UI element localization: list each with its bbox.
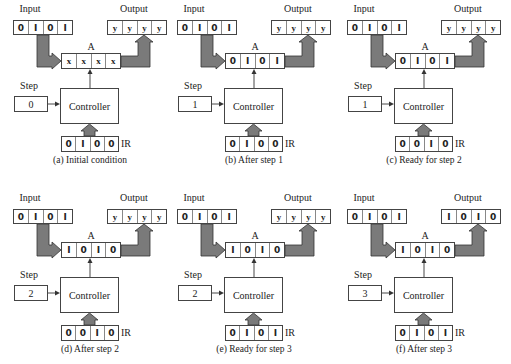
output-bit: y — [301, 21, 316, 34]
ir-to-controller-arrow — [81, 313, 98, 325]
ir-to-controller-arrow — [245, 124, 262, 136]
input-bit: I — [28, 210, 43, 223]
diagram-panel-b: Input 0I0I Output yyyy A 0I0I Step 1 Con… — [164, 0, 334, 180]
diagram-panel-d: Input 0I0I Output yyyy A I0I0 Step 2 Con… — [0, 189, 170, 364]
ir-bit: I — [239, 137, 253, 151]
output-bit: y — [315, 210, 330, 223]
ir-bit: 0 — [396, 326, 409, 340]
a-bit: I — [255, 243, 270, 257]
ir-to-controller-arrow — [245, 313, 262, 325]
diagram-panel-c: Input 0I0I Output yyyy A 0I0I Step 1 Con… — [334, 0, 504, 180]
accumulator-label: A — [249, 230, 261, 241]
input-register: 0I0I — [347, 209, 407, 224]
input-bit: 0 — [14, 210, 28, 223]
input-to-a-arrow — [37, 35, 61, 69]
ir-bit: I — [90, 326, 104, 340]
arrowhead-icon — [88, 258, 93, 263]
input-bit: 0 — [207, 21, 222, 34]
ir-label: IR — [285, 138, 299, 149]
input-register: 0I0I — [177, 209, 237, 224]
a-to-output-arrow — [455, 35, 487, 67]
step-counter: 1 — [348, 96, 382, 112]
a-bit: x — [105, 54, 120, 68]
a-bit: x — [62, 54, 76, 68]
output-bit: y — [137, 210, 152, 223]
panel-caption: (e) Ready for step 3 — [164, 344, 344, 354]
accumulator-register: I0I0 — [225, 242, 285, 258]
output-bit: y — [286, 210, 301, 223]
input-to-a-arrow — [201, 35, 225, 69]
output-label: Output — [446, 192, 490, 203]
accumulator-register: xxxx — [61, 53, 121, 69]
step-label: Step — [12, 80, 46, 91]
accumulator-label: A — [419, 230, 431, 241]
accumulator-label: A — [85, 41, 97, 52]
a-to-output-arrow — [121, 224, 153, 256]
input-bit: I — [192, 21, 207, 34]
controller-box: Controller — [60, 277, 119, 313]
input-register: 0I0I — [347, 20, 407, 35]
output-bit: y — [108, 21, 122, 34]
accumulator-label: A — [419, 41, 431, 52]
instruction-register: 0I0I — [225, 325, 283, 341]
ir-bit: 0 — [226, 137, 239, 151]
panel-caption: (d) After step 2 — [0, 344, 180, 354]
ir-bit: I — [438, 326, 452, 340]
step-counter: 2 — [178, 285, 212, 301]
controller-box: Controller — [224, 88, 283, 124]
ir-bit: I — [268, 326, 282, 340]
input-to-a-arrow — [37, 224, 61, 258]
input-bit: I — [362, 210, 377, 223]
a-to-output-arrow — [121, 35, 153, 67]
ir-bit: 0 — [226, 326, 239, 340]
step-label: Step — [346, 269, 380, 280]
output-bit: y — [315, 21, 330, 34]
input-label: Input — [177, 3, 211, 14]
ir-bit: 0 — [409, 137, 423, 151]
input-bit: 0 — [178, 21, 192, 34]
output-bit: y — [301, 210, 316, 223]
arrowhead-icon — [252, 69, 257, 74]
instruction-register: 00I0 — [61, 325, 119, 341]
instruction-register: 00I0 — [395, 136, 453, 152]
input-bit: I — [192, 210, 207, 223]
input-label: Input — [13, 3, 47, 14]
input-bit: I — [57, 210, 72, 223]
input-label: Input — [347, 192, 381, 203]
input-bit: I — [57, 21, 72, 34]
ir-bit: 0 — [268, 137, 282, 151]
a-bit: I — [410, 54, 425, 68]
ir-bit: 0 — [424, 326, 438, 340]
a-bit: I — [240, 54, 255, 68]
instruction-register: 0I00 — [61, 136, 119, 152]
ir-label: IR — [121, 138, 135, 149]
controller-box: Controller — [224, 277, 283, 313]
output-bit: y — [122, 210, 137, 223]
controller-box: Controller — [394, 88, 453, 124]
ir-label: IR — [455, 327, 469, 338]
output-bit: I — [471, 210, 486, 223]
instruction-register: 0I00 — [225, 136, 283, 152]
ir-bit: 0 — [438, 137, 452, 151]
output-bit: I — [442, 210, 456, 223]
input-register: 0I0I — [13, 20, 73, 35]
input-register: 0I0I — [13, 209, 73, 224]
output-register: I0I0 — [441, 209, 501, 224]
ir-bit: I — [239, 326, 253, 340]
output-register: yyyy — [107, 209, 167, 224]
ir-bit: I — [75, 137, 89, 151]
arrowhead-icon — [88, 69, 93, 74]
input-label: Input — [177, 192, 211, 203]
ir-label: IR — [285, 327, 299, 338]
accumulator-register: 0I0I — [225, 53, 285, 69]
ir-bit: 0 — [62, 326, 75, 340]
input-bit: 0 — [348, 210, 362, 223]
input-bit: 0 — [377, 210, 392, 223]
a-bit: 0 — [396, 54, 410, 68]
ir-bit: 0 — [104, 326, 118, 340]
step-counter: 2 — [14, 285, 48, 301]
a-bit: x — [91, 54, 106, 68]
ir-label: IR — [121, 327, 135, 338]
output-label: Output — [112, 3, 156, 14]
step-label: Step — [346, 80, 380, 91]
